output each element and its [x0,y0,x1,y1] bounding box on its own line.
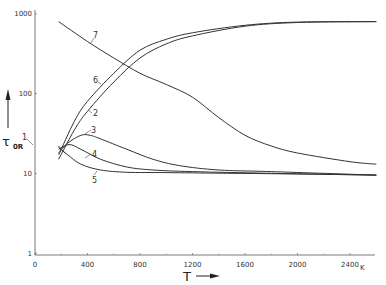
x-axis-title-text: T [182,269,191,284]
curves [59,22,377,176]
leader-line-6 [98,82,101,84]
y-tick-label: 1 [28,250,32,258]
leader-line-1 [27,139,33,145]
curve-6 [59,22,377,155]
y-axis-title: τ 0R [2,89,24,151]
curve-label-7: 7 [93,31,98,40]
curve-7 [59,22,377,165]
chart: 04008001200160020002400 1101001000 12345… [0,0,386,285]
x-tick-label: 1200 [184,261,202,269]
y-axis-title-text: τ [2,134,10,149]
curve-labels: 1234567 [22,31,101,185]
curve-label-4: 4 [92,150,97,159]
x-tick-label: 2000 [289,261,307,269]
curve-label-6: 6 [93,76,98,85]
y-tick-label: 1000 [14,10,32,18]
y-tick-label: 10 [23,170,32,178]
axes [35,10,375,255]
y-axis-subscript: 0R [13,143,24,151]
x-tick-label: 0 [33,261,37,269]
curve-2 [59,22,377,160]
leader-line-4 [85,154,91,158]
curve-label-3: 3 [91,126,96,135]
leader-line-5 [94,171,97,175]
x-unit-label: K [360,264,365,272]
x-tick-label: 400 [81,261,94,269]
x-tick-label: 2400 [341,261,359,269]
x-tick-label: 800 [133,261,146,269]
leader-line-2 [88,110,92,113]
curve-3 [59,135,377,176]
y-arrow-icon [6,89,11,100]
curve-label-1: 1 [22,133,27,142]
y-tick-label: 100 [19,90,32,98]
x-axis-title: T [182,269,220,284]
curve-label-2: 2 [93,109,98,118]
x-arrow-icon [210,274,220,279]
curve-label-5: 5 [92,176,97,185]
x-tick-label: 1600 [236,261,254,269]
